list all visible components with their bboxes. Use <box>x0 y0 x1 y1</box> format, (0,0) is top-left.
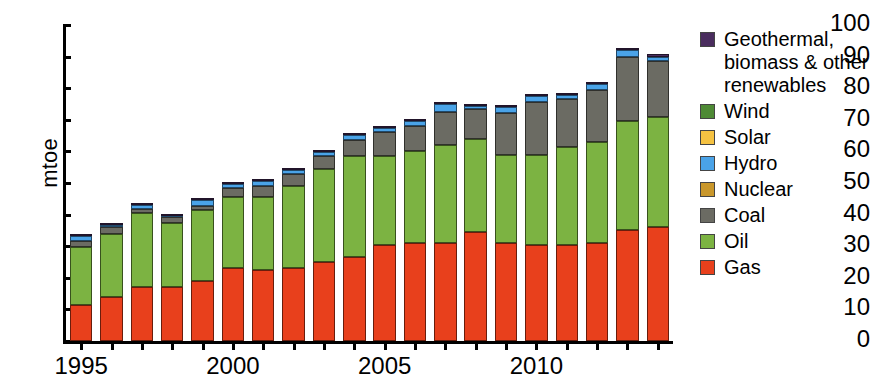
bar-segment-hydro-1995 <box>70 236 92 241</box>
legend-oil-label: Oil <box>724 230 748 253</box>
legend-nuclear-swatch-icon <box>700 182 715 197</box>
bar-segment-oil-2006 <box>404 151 426 243</box>
bar-segment-gas-2013 <box>616 230 638 341</box>
bar-segment-coal-2008 <box>464 109 486 139</box>
bar-segment-oil-2000 <box>222 197 244 268</box>
bar-2000[interactable] <box>222 25 244 341</box>
bar-2008[interactable] <box>464 25 486 341</box>
bar-segment-gas-2014 <box>647 227 669 341</box>
bar-segment-geothermal-1996 <box>100 223 122 225</box>
x-tick-2011 <box>566 341 569 350</box>
bar-1998[interactable] <box>161 25 183 341</box>
bar-2001[interactable] <box>252 25 274 341</box>
legend-coal[interactable]: Coal <box>700 204 870 227</box>
bar-2009[interactable] <box>495 25 517 341</box>
x-tick-label-2005: 2005 <box>340 352 430 380</box>
x-tick-2005 <box>384 341 387 350</box>
legend-geothermal[interactable]: Geothermal, biomass & other renewables <box>700 28 870 97</box>
bar-segment-coal-1995 <box>70 241 92 247</box>
bar-segment-coal-2007 <box>434 112 456 145</box>
bar-segment-hydro-2009 <box>495 107 517 114</box>
legend-nuclear[interactable]: Nuclear <box>700 178 870 201</box>
legend-oil[interactable]: Oil <box>700 230 870 253</box>
bar-segment-coal-1998 <box>161 217 183 223</box>
legend-gas[interactable]: Gas <box>700 256 870 279</box>
x-tick-2004 <box>353 341 356 350</box>
bar-1997[interactable] <box>131 25 153 341</box>
bar-2010[interactable] <box>525 25 547 341</box>
bar-segment-oil-2008 <box>464 139 486 232</box>
bar-segment-oil-2010 <box>525 155 547 245</box>
bar-segment-coal-1996 <box>100 227 122 234</box>
bar-2006[interactable] <box>404 25 426 341</box>
stacked-bar-chart: mtoe 0102030405060708090100 199520002005… <box>0 0 870 392</box>
bar-segment-gas-2002 <box>282 268 304 341</box>
bar-segment-oil-2002 <box>282 186 304 268</box>
bar-2002[interactable] <box>282 25 304 341</box>
bar-segment-oil-2007 <box>434 145 456 243</box>
bar-segment-hydro-1999 <box>191 200 213 206</box>
legend-wind-label: Wind <box>724 100 770 123</box>
bar-segment-gas-2001 <box>252 270 274 341</box>
x-tick-2000 <box>232 341 235 350</box>
bar-2007[interactable] <box>434 25 456 341</box>
bar-segment-geothermal-1997 <box>131 203 153 205</box>
bar-2011[interactable] <box>556 25 578 341</box>
bar-segment-hydro-2010 <box>525 96 547 102</box>
bar-segment-oil-1999 <box>191 210 213 281</box>
bar-segment-geothermal-2013 <box>616 48 638 51</box>
bar-segment-geothermal-2004 <box>343 133 365 135</box>
x-tick-2008 <box>475 341 478 350</box>
bar-segment-coal-2011 <box>556 99 578 146</box>
bar-1996[interactable] <box>100 25 122 341</box>
legend-hydro[interactable]: Hydro <box>700 152 870 175</box>
bar-2013[interactable] <box>616 25 638 341</box>
bar-segment-gas-2012 <box>586 243 608 341</box>
bar-segment-oil-2013 <box>616 121 638 230</box>
bar-segment-geothermal-2000 <box>222 182 244 184</box>
bar-segment-oil-2001 <box>252 197 274 270</box>
y-axis-title: mtoe <box>37 103 63 223</box>
bar-segment-coal-2006 <box>404 126 426 151</box>
bar-2005[interactable] <box>373 25 395 341</box>
bar-segment-gas-2011 <box>556 245 578 341</box>
bar-segment-oil-2004 <box>343 156 365 257</box>
bar-segment-coal-1999 <box>191 206 213 210</box>
bar-segment-geothermal-1998 <box>161 214 183 216</box>
legend-wind[interactable]: Wind <box>700 100 870 123</box>
bar-segment-geothermal-2005 <box>373 126 395 128</box>
bar-segment-coal-2004 <box>343 140 365 156</box>
bar-segment-hydro-2008 <box>464 106 486 109</box>
bar-segment-hydro-2007 <box>434 104 456 112</box>
x-tick-2014 <box>657 341 660 350</box>
bar-2014[interactable] <box>647 25 669 341</box>
bar-2004[interactable] <box>343 25 365 341</box>
chart-legend: Geothermal, biomass & other renewablesWi… <box>700 28 870 282</box>
bar-2012[interactable] <box>586 25 608 341</box>
y-tick-label-0: 0 <box>814 327 870 351</box>
legend-solar-label: Solar <box>724 126 771 149</box>
legend-gas-swatch-icon <box>700 260 715 275</box>
bar-segment-hydro-2005 <box>373 128 395 133</box>
bar-1999[interactable] <box>191 25 213 341</box>
bar-segment-gas-2007 <box>434 243 456 341</box>
bar-segment-gas-2000 <box>222 268 244 341</box>
bar-segment-geothermal-2012 <box>586 82 608 84</box>
bar-1995[interactable] <box>70 25 92 341</box>
legend-oil-swatch-icon <box>700 234 715 249</box>
legend-solar-swatch-icon <box>700 130 715 145</box>
x-tick-2012 <box>596 341 599 350</box>
bar-segment-geothermal-2010 <box>525 94 547 96</box>
bar-2003[interactable] <box>313 25 335 341</box>
bar-segment-geothermal-2002 <box>282 168 304 170</box>
bar-segment-gas-2004 <box>343 257 365 341</box>
bar-segment-gas-1998 <box>161 287 183 341</box>
x-tick-2003 <box>323 341 326 350</box>
bar-segment-hydro-2003 <box>313 152 335 156</box>
bar-segment-oil-1998 <box>161 223 183 287</box>
bar-segment-coal-2003 <box>313 156 335 169</box>
bar-segment-hydro-2006 <box>404 121 426 126</box>
legend-solar[interactable]: Solar <box>700 126 870 149</box>
legend-coal-swatch-icon <box>700 208 715 223</box>
x-tick-1997 <box>141 341 144 350</box>
